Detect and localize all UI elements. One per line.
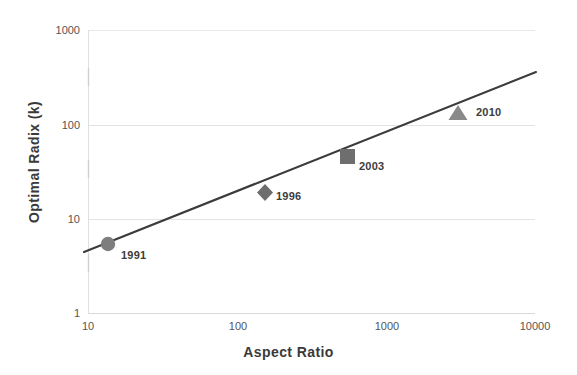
data-label-2003: 2003: [359, 160, 384, 172]
x-axis-title: Aspect Ratio: [0, 344, 577, 360]
y-tick-label-1: 1: [20, 307, 80, 319]
chart-plot-area: [0, 0, 577, 375]
data-point-marker-2003[interactable]: [340, 149, 355, 164]
data-label-1991: 1991: [121, 249, 146, 261]
y-tick-label-1000: 1000: [20, 24, 80, 36]
x-tick-label-1000: 1000: [347, 320, 427, 332]
data-label-2010: 2010: [476, 106, 501, 118]
data-label-1996: 1996: [276, 190, 301, 202]
trend-line: [84, 72, 536, 252]
data-point-marker-1991[interactable]: [101, 237, 115, 251]
data-point-marker-1996[interactable]: [257, 184, 273, 201]
x-tick-label-100: 100: [198, 320, 278, 332]
y-axis-title: Optimal Radix (k): [26, 57, 42, 267]
chart-container: 1000 100 10 1 10 100 1000 10000 1991 199…: [0, 0, 577, 375]
x-tick-label-10: 10: [48, 320, 128, 332]
x-tick-label-10000: 10000: [495, 320, 575, 332]
data-point-marker-2010[interactable]: [449, 105, 468, 120]
